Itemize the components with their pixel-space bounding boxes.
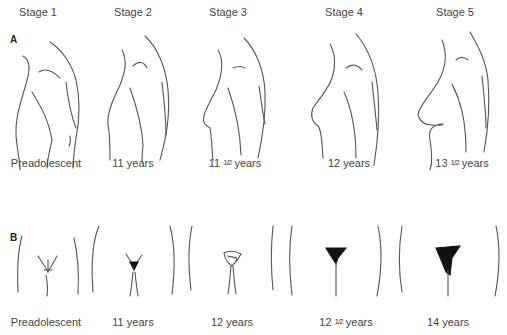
breast-profile-stage-1	[16, 42, 79, 170]
panel-a-age-5: 13 1/2 years	[435, 157, 488, 169]
breast-profile-stage-3	[203, 38, 265, 160]
panel-b-age-3: 12 years	[211, 316, 253, 328]
breast-profile-stage-5	[418, 32, 489, 170]
pubic-hair-stage-5	[399, 226, 499, 296]
pubic-hair-stage-2	[92, 226, 174, 296]
panel-a-age-3: 11 1/2 years	[209, 157, 262, 169]
pubic-hair-stage-3	[189, 226, 241, 294]
pubic-hair-stage-1	[18, 236, 79, 296]
panel-a-age-2: 11 years	[112, 157, 153, 169]
panel-a-age-1: Preadolescent	[11, 157, 81, 169]
breast-profile-stage-2	[108, 36, 169, 162]
breast-profile-stage-4	[312, 34, 379, 165]
pubic-hair-stage-4	[272, 226, 381, 296]
panel-a-age-4: 12 years	[328, 157, 370, 169]
panel-b-age-1: Preadolescent	[11, 316, 81, 328]
panel-b-age-5: 14 years	[427, 316, 469, 328]
panel-b-age-2: 11 years	[112, 316, 153, 328]
panel-b-age-4: 12 1/2 years	[319, 316, 372, 328]
